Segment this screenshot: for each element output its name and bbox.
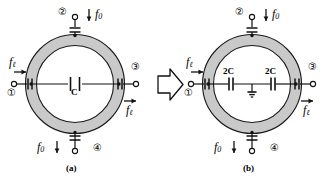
panel-caption-b: (b) (243, 164, 254, 173)
capacitor-label-c-a: C (71, 88, 78, 97)
signal-label-f0-top-a: f0 (95, 8, 102, 21)
signal-label-f0-bottom-b: f0 (214, 141, 221, 154)
signal-label-f0-top-b: f0 (272, 8, 279, 21)
port-1-terminal-a[interactable] (11, 81, 16, 86)
port-1-arrow-head-a (22, 70, 27, 75)
transform-arrow (158, 69, 183, 100)
port-4-a[interactable] (55, 131, 81, 154)
f-subscript: 0 (98, 12, 102, 21)
port-4-number-a: ④ (93, 143, 102, 153)
junction-dot-right-a (117, 82, 120, 85)
port-2-arrow-head-a (87, 17, 92, 22)
port-2-number-a: ② (58, 7, 67, 17)
f-subscript: ℓ (12, 60, 15, 69)
panel-b (188, 9, 315, 154)
port-2-terminal-b[interactable] (249, 14, 254, 19)
f-subscript: 0 (217, 145, 221, 154)
signal-label-f0-bottom-a: f0 (37, 141, 44, 154)
port-3-number-a: ③ (131, 62, 140, 72)
port-2-arrow-head-b (264, 17, 269, 22)
port-1-terminal-b[interactable] (188, 81, 193, 86)
center-capacitor-right-b (271, 78, 275, 91)
junction-dot-right-b (294, 82, 297, 85)
f-subscript: 0 (275, 12, 279, 21)
port-2-b[interactable] (247, 9, 269, 37)
capacitor-label-2c-right-b: 2C (265, 67, 276, 76)
junction-dot-bottom-a (73, 131, 76, 134)
panel-a (11, 9, 138, 154)
port-4-arrow-head-a (55, 149, 60, 154)
port-2-coupling-capacitor-b (247, 28, 258, 32)
port-1-number-b: ① (184, 88, 193, 98)
port-3-terminal-a[interactable] (133, 81, 138, 86)
port-1-arrow-head-b (199, 70, 204, 75)
port-4-terminal-a[interactable] (72, 148, 77, 153)
junction-dot-top-b (250, 34, 253, 37)
signal-label-fl-right-b: fℓ (303, 104, 310, 117)
port-1-number-a: ① (7, 88, 16, 98)
port-2-terminal-a[interactable] (72, 14, 77, 19)
port-4-number-b: ④ (270, 143, 279, 153)
junction-dot-left-b (206, 82, 209, 85)
panel-caption-a: (a) (66, 164, 77, 173)
port-4-arrow-head-b (232, 149, 237, 154)
f-subscript: ℓ (306, 108, 309, 117)
signal-label-fl-left-a: fℓ (9, 56, 16, 69)
signal-label-fl-right-a: fℓ (126, 104, 133, 117)
port-2-number-b: ② (235, 7, 244, 17)
signal-label-fl-left-b: fℓ (186, 56, 193, 69)
junction-dot-left-a (29, 82, 32, 85)
junction-dot-top-a (73, 34, 76, 37)
port-2-coupling-capacitor-a (70, 28, 81, 32)
port-4-terminal-b[interactable] (249, 148, 254, 153)
f-subscript: ℓ (189, 60, 192, 69)
junction-dot-bottom-b (250, 131, 253, 134)
port-4-b[interactable] (232, 131, 258, 154)
center-capacitor-left-b (229, 78, 233, 91)
capacitor-label-2c-left-b: 2C (223, 67, 234, 76)
port-3-terminal-b[interactable] (310, 81, 315, 86)
f-subscript: ℓ (129, 108, 132, 117)
figure-ring-resonator-transformation (0, 0, 333, 182)
port-2-a[interactable] (70, 9, 92, 37)
port-3-number-b: ③ (308, 62, 317, 72)
ground-symbol-b (248, 84, 257, 97)
port-3-arrow-head-b (309, 99, 314, 104)
f-subscript: 0 (40, 145, 44, 154)
port-3-arrow-head-a (132, 99, 137, 104)
